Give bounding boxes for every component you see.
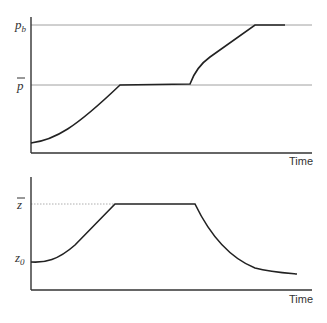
top-curve <box>31 25 285 143</box>
top-x-label: Time <box>289 155 313 167</box>
pb-label: pb <box>14 17 27 34</box>
top-panel: pb p Time <box>14 17 313 167</box>
zbar-label: z <box>16 197 22 212</box>
z0-label: z0 <box>14 250 25 267</box>
bottom-panel: z z0 Time <box>14 177 313 305</box>
bottom-x-label: Time <box>289 293 313 305</box>
diagram: pb p Time z z0 Time <box>0 0 327 323</box>
pbar-label: p <box>16 78 24 93</box>
bottom-curve <box>31 204 297 274</box>
